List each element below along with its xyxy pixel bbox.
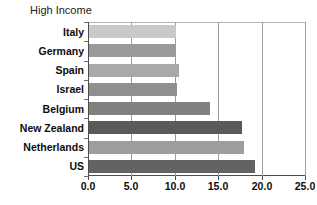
x-tick-label-15.0: 15.0 <box>208 180 228 193</box>
bar-row <box>89 61 306 80</box>
y-tick-label-spain: Spain <box>0 64 84 76</box>
x-tick-label-0.0: 0.0 <box>81 180 96 193</box>
bar-israel[interactable] <box>89 83 177 96</box>
y-tick-mark <box>84 61 88 62</box>
bar-row <box>89 99 306 118</box>
x-tick-label-5.0: 5.0 <box>124 180 139 193</box>
bar-row <box>89 138 306 157</box>
chart-title: High Income <box>30 4 92 17</box>
plot-area <box>88 22 306 176</box>
bar-new-zealand[interactable] <box>89 121 242 134</box>
y-tick-mark <box>84 80 88 81</box>
bar-us[interactable] <box>89 160 255 173</box>
y-tick-label-belgium: Belgium <box>0 103 84 115</box>
bar-spain[interactable] <box>89 64 179 77</box>
bar-row <box>89 22 306 41</box>
y-tick-label-new-zealand: New Zealand <box>0 122 84 134</box>
bar-row <box>89 80 306 99</box>
y-tick-label-israel: Israel <box>0 83 84 95</box>
x-axis-tick-labels: 0.05.010.015.020.025.0 <box>88 180 306 196</box>
bar-netherlands[interactable] <box>89 141 244 154</box>
y-tick-mark <box>84 176 88 177</box>
y-tick-mark <box>84 41 88 42</box>
bar-chart: High Income ItalyGermanySpainIsraelBelgi… <box>0 0 317 205</box>
x-tick-label-25.0: 25.0 <box>295 180 315 193</box>
bar-germany[interactable] <box>89 44 175 57</box>
y-tick-mark <box>84 138 88 139</box>
y-tick-label-netherlands: Netherlands <box>0 141 84 153</box>
x-tick-label-10.0: 10.0 <box>165 180 185 193</box>
x-tick-label-20.0: 20.0 <box>252 180 272 193</box>
bar-row <box>89 41 306 60</box>
y-axis-category-labels: ItalyGermanySpainIsraelBelgiumNew Zealan… <box>0 22 84 176</box>
bar-row <box>89 157 306 176</box>
y-tick-label-us: US <box>0 160 84 172</box>
bar-italy[interactable] <box>89 25 176 38</box>
y-tick-label-italy: Italy <box>0 26 84 38</box>
y-tick-mark <box>84 99 88 100</box>
y-tick-label-germany: Germany <box>0 45 84 57</box>
bar-row <box>89 118 306 137</box>
y-tick-mark <box>84 118 88 119</box>
y-tick-mark <box>84 22 88 23</box>
y-tick-mark <box>84 157 88 158</box>
bar-belgium[interactable] <box>89 102 210 115</box>
